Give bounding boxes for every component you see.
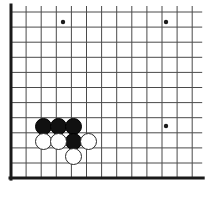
- white-stone-4[interactable]: [65, 148, 82, 165]
- hoshi-top-left: [61, 20, 65, 24]
- white-stone-1[interactable]: [35, 133, 52, 150]
- black-stone-4[interactable]: [65, 133, 82, 150]
- white-stone-3[interactable]: [80, 133, 97, 150]
- go-board-diagram: [0, 0, 205, 199]
- white-stone-2[interactable]: [50, 133, 67, 150]
- black-stone-3[interactable]: [65, 118, 82, 135]
- goban-grid[interactable]: [0, 0, 205, 199]
- board-background: [0, 0, 205, 199]
- hoshi-right: [164, 124, 168, 128]
- board-svg-canvas: [0, 0, 205, 199]
- black-stone-1[interactable]: [35, 118, 52, 135]
- black-stone-2[interactable]: [50, 118, 67, 135]
- hoshi-top-right: [164, 20, 168, 24]
